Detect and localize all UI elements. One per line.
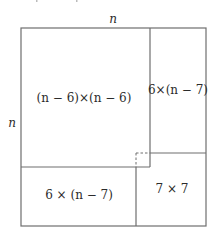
bottom-strip-label: 6 × (n − 7) xyxy=(45,188,113,202)
square-decomposition-diagram: n n (n − 6)×(n − 6) 6×(n − 7) 6 × (n − 7… xyxy=(0,0,217,235)
top-dimension-label: n xyxy=(109,12,117,26)
right-strip-label: 6×(n − 7) xyxy=(148,83,208,97)
corner-square-label: 7 × 7 xyxy=(156,182,189,196)
overlap-dashed-square xyxy=(136,153,150,167)
left-dimension-label: n xyxy=(8,116,16,130)
big-square-label: (n − 6)×(n − 6) xyxy=(37,91,132,105)
cropped-text-fragments xyxy=(36,0,78,2)
